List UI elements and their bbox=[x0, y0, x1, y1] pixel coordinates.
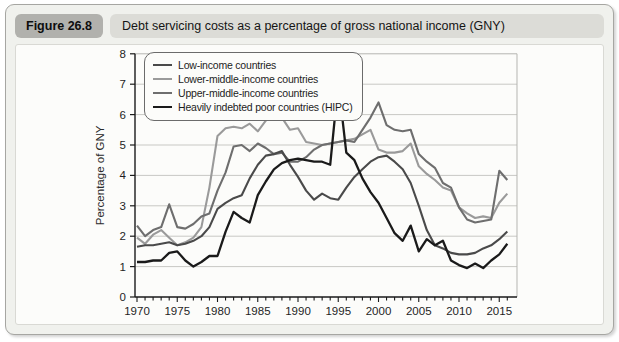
svg-text:2010: 2010 bbox=[446, 305, 472, 317]
svg-text:1990: 1990 bbox=[285, 305, 311, 317]
legend-line-swatch bbox=[153, 78, 172, 81]
svg-text:7: 7 bbox=[120, 78, 126, 90]
svg-text:1970: 1970 bbox=[124, 305, 150, 317]
legend-label: Low-income countries bbox=[178, 59, 276, 71]
legend-line-swatch bbox=[153, 106, 172, 109]
chart-legend: Low-income countries Lower-middle-income… bbox=[144, 52, 363, 121]
svg-text:3: 3 bbox=[120, 200, 126, 212]
legend-item-low-income: Low-income countries bbox=[153, 58, 352, 72]
svg-text:0: 0 bbox=[120, 291, 126, 303]
legend-item-upper-middle-income: Upper-middle-income countries bbox=[153, 86, 352, 100]
svg-text:1985: 1985 bbox=[245, 305, 271, 317]
legend-line-swatch bbox=[153, 92, 172, 95]
svg-text:1980: 1980 bbox=[205, 305, 231, 317]
svg-text:1975: 1975 bbox=[164, 305, 190, 317]
svg-text:Percentage of GNY: Percentage of GNY bbox=[94, 125, 106, 225]
legend-item-lower-middle-income: Lower-middle-income countries bbox=[153, 72, 352, 86]
svg-text:2015: 2015 bbox=[486, 305, 512, 317]
svg-text:1: 1 bbox=[120, 261, 126, 273]
svg-text:1995: 1995 bbox=[325, 305, 351, 317]
svg-text:8: 8 bbox=[120, 48, 126, 60]
legend-item-hipc: Heavily indebted poor countries (HIPC) bbox=[153, 100, 352, 114]
svg-text:2005: 2005 bbox=[406, 305, 432, 317]
legend-label: Lower-middle-income countries bbox=[178, 73, 318, 85]
svg-text:2: 2 bbox=[120, 230, 126, 242]
legend-label: Upper-middle-income countries bbox=[178, 87, 318, 99]
svg-text:5: 5 bbox=[120, 139, 126, 151]
svg-text:6: 6 bbox=[120, 109, 126, 121]
svg-text:4: 4 bbox=[120, 169, 127, 181]
legend-line-swatch bbox=[153, 64, 172, 67]
legend-label: Heavily indebted poor countries (HIPC) bbox=[178, 101, 352, 113]
figure-page: Figure 26.8 Debt servicing costs as a pe… bbox=[0, 0, 619, 342]
svg-text:2000: 2000 bbox=[366, 305, 392, 317]
